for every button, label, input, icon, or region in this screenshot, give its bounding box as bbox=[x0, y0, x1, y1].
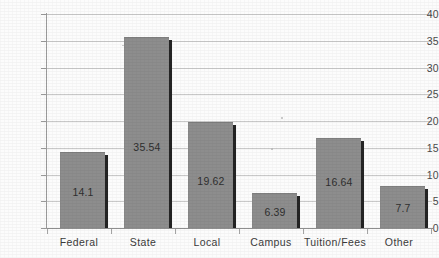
bar-chart: .gridline{left:47px;width:385px;} 40 35 … bbox=[0, 0, 439, 258]
scan-speck bbox=[281, 117, 283, 119]
bar-federal: 14.1 bbox=[60, 152, 105, 228]
category-label-local: Local bbox=[175, 236, 239, 248]
bar-value-campus: 6.39 bbox=[253, 206, 297, 218]
category-label-tuition-fees: Tuition/Fees bbox=[301, 236, 369, 248]
x-tick-5 bbox=[367, 229, 368, 234]
category-label-federal: Federal bbox=[47, 236, 111, 248]
x-tick-6 bbox=[431, 229, 432, 234]
x-tick-4 bbox=[303, 229, 304, 234]
bar-value-other: 7.7 bbox=[381, 202, 425, 214]
bar-campus: 6.39 bbox=[252, 193, 297, 228]
x-tick-2 bbox=[175, 229, 176, 234]
scan-speck bbox=[122, 45, 124, 46]
scan-speck bbox=[271, 148, 273, 150]
bar-value-federal: 14.1 bbox=[61, 186, 105, 198]
x-tick-3 bbox=[239, 229, 240, 234]
bar-other: 7.7 bbox=[380, 186, 425, 228]
bar-value-tuition-fees: 16.64 bbox=[317, 176, 361, 188]
category-label-campus: Campus bbox=[239, 236, 303, 248]
plot-area: 14.1 35.54 19.62 6.39 16.64 7.7 bbox=[47, 14, 432, 228]
x-tick-0 bbox=[47, 229, 48, 234]
bar-tuition-fees: 16.64 bbox=[316, 138, 361, 228]
bar-value-local: 19.62 bbox=[189, 175, 233, 187]
bar-value-state: 35.54 bbox=[125, 141, 169, 153]
x-tick-1 bbox=[111, 229, 112, 234]
category-label-other: Other bbox=[367, 236, 431, 248]
category-label-state: State bbox=[111, 236, 175, 248]
bar-state: 35.54 bbox=[124, 37, 169, 228]
bar-local: 19.62 bbox=[188, 122, 233, 228]
